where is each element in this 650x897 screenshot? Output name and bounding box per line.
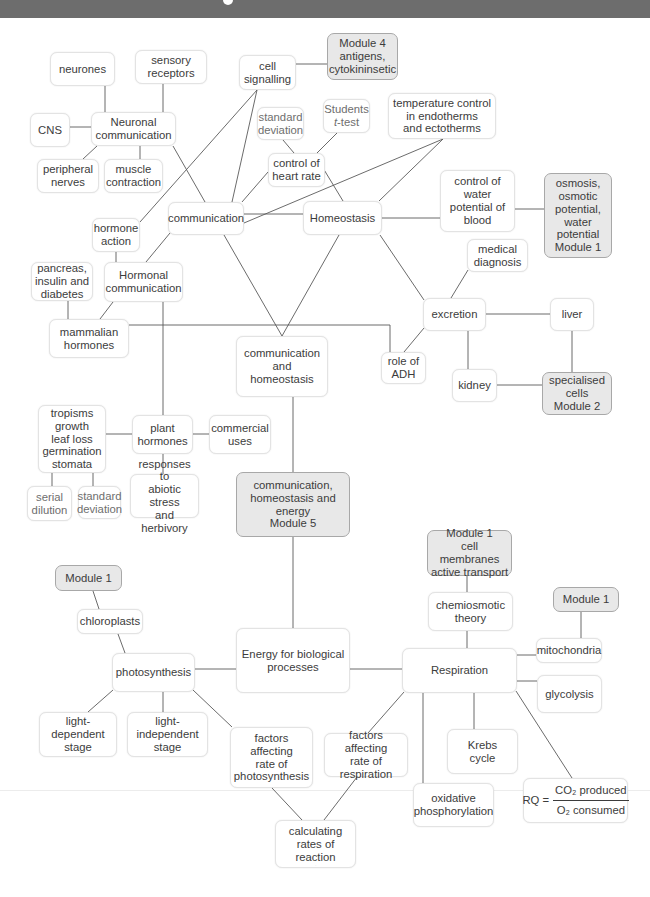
rate-curve-graph-icon	[302, 865, 330, 866]
node-factors-rate-photosynthesis: factors affecting rate of photosynthesis	[230, 727, 313, 788]
node-module1-cell-membranes: Module 1 cell membranes active transport	[427, 530, 512, 576]
node-cns: CNS	[30, 113, 70, 147]
node-tropisms: tropisms growth leaf loss germination st…	[38, 405, 106, 473]
node-factors-rate-respiration: factors affecting rate of respiration	[324, 733, 408, 777]
node-photosynthesis: photosynthesis	[112, 653, 195, 692]
node-cell-signalling: cell signalling	[239, 55, 296, 90]
node-medical-diagnosis: medical diagnosis	[467, 239, 528, 272]
node-module1-left: Module 1	[55, 565, 122, 591]
node-plant-hormones: plant hormones	[132, 415, 193, 454]
node-responses-abiotic-stress: responses to abiotic stress and herbivor…	[130, 474, 199, 518]
node-serial-dilution: serial dilution	[27, 486, 72, 521]
node-energy-biological-processes: Energy for biological processes	[236, 628, 350, 693]
node-light-dependent-stage: light-dependent stage	[39, 712, 117, 757]
calculating-label: calculating rates of reaction	[278, 825, 353, 863]
node-communication: communication	[168, 202, 244, 235]
node-chloroplasts: chloroplasts	[77, 609, 143, 634]
node-commercial-uses: commercial uses	[209, 415, 271, 454]
node-neurones: neurones	[50, 52, 115, 86]
node-homeostasis: Homeostasis	[303, 201, 382, 235]
test-suffix: -test	[337, 116, 359, 128]
node-role-of-adh: role of ADH	[381, 352, 426, 384]
node-light-independent-stage: light-independent stage	[127, 712, 208, 757]
node-standard-deviation-top: standard deviation	[257, 107, 304, 140]
node-sensory-receptors: sensory receptors	[135, 50, 207, 84]
node-rq-equation: RQ = CO₂ produced O₂ consumed	[523, 778, 628, 823]
students-label: Students	[324, 103, 369, 116]
t-test-label: t-test	[334, 116, 359, 129]
node-chemiosmotic-theory: chemiosmotic theory	[428, 592, 513, 631]
node-module4-antigens: Module 4 antigens, cytokininsetic	[327, 33, 398, 80]
node-excretion: excretion	[423, 298, 486, 331]
node-standard-deviation-low: standard deviation	[78, 486, 121, 519]
node-neuronal-communication: Neuronal communication	[91, 112, 176, 146]
node-mitochondria: mitochondria	[536, 638, 602, 663]
node-control-water-potential: control of water potential of blood	[440, 170, 515, 232]
rq-denominator: O₂ consumed	[555, 801, 627, 817]
rq-fraction: CO₂ produced O₂ consumed	[553, 784, 629, 817]
node-students-t-test: Students t-test	[323, 99, 370, 133]
node-glycolysis: glycolysis	[537, 675, 602, 713]
node-liver: liver	[550, 298, 594, 331]
node-pancreas-insulin-diabetes: pancreas, insulin and diabetes	[31, 262, 93, 301]
node-peripheral-nerves: peripheral nerves	[37, 159, 99, 193]
node-hormonal-communication: Hormonal communication	[104, 262, 183, 302]
node-muscle-contraction: muscle contraction	[104, 159, 163, 193]
node-krebs-cycle: Krebs cycle	[447, 729, 518, 774]
node-kidney: kidney	[452, 369, 497, 402]
node-respiration: Respiration	[402, 648, 517, 693]
node-control-heart-rate: control of heart rate	[268, 153, 325, 187]
rq-numerator: CO₂ produced	[553, 784, 629, 801]
node-module1-right: Module 1	[553, 587, 619, 612]
node-specialised-cells-module2: specialised cells Module 2	[542, 372, 612, 415]
node-osmosis-module1: osmosis, osmotic potential, water potent…	[544, 173, 612, 258]
node-module5-central: communication, homeostasis and energy Mo…	[236, 472, 350, 537]
rq-label: RQ =	[522, 794, 549, 807]
node-oxidative-phosphorylation: oxidative phosphorylation	[413, 783, 494, 827]
node-communication-and-homeostasis: communication and homeostasis	[236, 336, 328, 397]
node-hormone-action: hormone action	[92, 218, 140, 252]
node-temperature-control: temperature control in endotherms and ec…	[388, 93, 496, 139]
node-calculating-rates-of-reaction: calculating rates of reaction	[275, 820, 356, 868]
node-mammalian-hormones: mammalian hormones	[49, 319, 129, 358]
